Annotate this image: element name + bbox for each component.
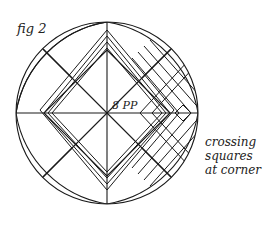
corner-line xyxy=(40,148,72,180)
geometric-diagram: 8 PP xyxy=(0,0,266,225)
caption-line: squares xyxy=(205,149,261,163)
center-label: 8 PP xyxy=(112,99,138,112)
caption: crossing squares at corner xyxy=(205,135,261,177)
corner-line xyxy=(40,46,72,78)
caption-line: at corner xyxy=(205,163,261,177)
caption-line: crossing xyxy=(205,135,261,149)
